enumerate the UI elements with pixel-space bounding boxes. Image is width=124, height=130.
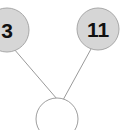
edge-left-to-bottom: [14, 49, 57, 99]
node-bottom-circle[interactable]: [36, 98, 78, 130]
node-left[interactable]: 3: [0, 8, 29, 52]
node-right-label: 11: [87, 18, 110, 41]
diagram-canvas: 3 11: [0, 0, 124, 130]
edge-right-to-bottom: [63, 49, 91, 100]
node-left-label: 3: [1, 19, 13, 42]
node-right[interactable]: 11: [77, 8, 119, 50]
node-bottom[interactable]: [36, 98, 78, 130]
graph-svg: 3 11: [0, 0, 124, 130]
